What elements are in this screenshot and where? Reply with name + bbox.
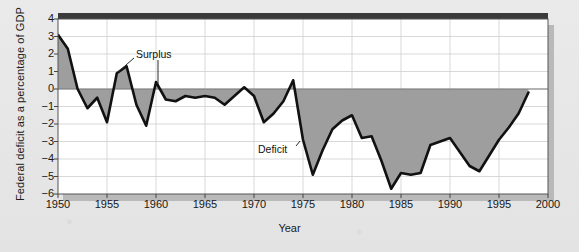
y-tick-label: 0 — [32, 83, 54, 94]
y-tick-label: −3 — [32, 136, 54, 147]
figure: Federal deficit as a percentage of GDP 4… — [0, 0, 579, 252]
y-tick-label: −2 — [32, 118, 54, 129]
x-tick-label: 2000 — [518, 198, 578, 210]
y-axis-title: Federal deficit as a percentage of GDP — [14, 6, 26, 202]
y-tick-label: −1 — [32, 101, 54, 112]
top-rule — [58, 13, 548, 19]
y-tick-label: 2 — [32, 48, 54, 59]
annotation-surplus: Surplus — [136, 48, 172, 60]
annotation-deficit: Deficit — [258, 143, 287, 155]
plot-area — [0, 0, 579, 252]
y-tick-label: 4 — [32, 13, 54, 24]
x-axis-title: Year — [0, 222, 579, 234]
y-tick-label: −5 — [32, 171, 54, 182]
y-tick-label: 3 — [32, 31, 54, 42]
y-tick-label: −4 — [32, 153, 54, 164]
y-tick-label: 1 — [32, 66, 54, 77]
y-axis-tick-labels: 43210−1−2−3−4−5−6 — [30, 0, 54, 252]
